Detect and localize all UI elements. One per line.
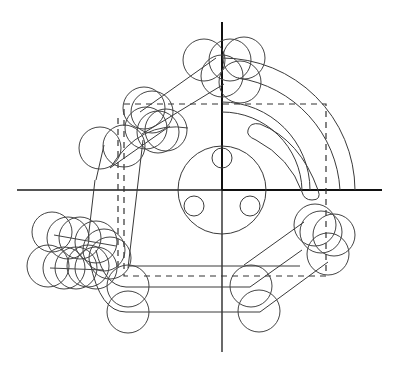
hole-left <box>184 196 204 216</box>
path-bl-line-1 <box>54 235 116 246</box>
tool-circle <box>183 39 225 81</box>
tool-circle <box>238 290 280 332</box>
hole-right <box>240 196 260 216</box>
path-diag-br-2 <box>260 262 328 312</box>
tool-circle <box>59 217 101 259</box>
tool-circle <box>43 247 85 289</box>
path-left-leg-3 <box>96 145 104 180</box>
toolpath-drawing <box>0 0 399 370</box>
path-curve-bl-1 <box>96 250 126 287</box>
path-diag-br-3 <box>244 222 304 265</box>
tool-circle <box>123 87 165 129</box>
tool-circle <box>107 265 149 307</box>
outer-arc-2 <box>238 78 340 190</box>
tool-circle <box>300 211 342 253</box>
tool-circle <box>145 109 187 151</box>
tool-circle <box>32 212 72 252</box>
tool-circle <box>83 229 125 271</box>
inner-arc-1 <box>222 112 302 190</box>
arc-slot <box>248 124 319 200</box>
cad-drawing-canvas <box>0 0 399 370</box>
